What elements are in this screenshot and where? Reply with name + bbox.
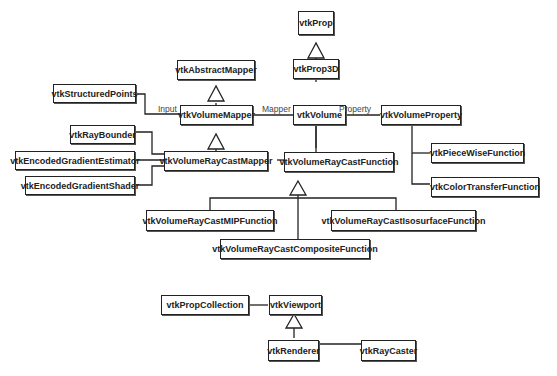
- class-vtkVolumeMapper: vtkVolumeMapper: [180, 105, 253, 125]
- class-vtkRenderer: vtkRenderer: [268, 340, 319, 361]
- class-vtkStructuredPoints: vtkStructuredPoints: [53, 84, 136, 103]
- class-vtkPieceWiseFunction: vtkPieceWiseFunction: [431, 143, 524, 163]
- class-vtkVolumeRayCastCompositeFunction: vtkVolumeRayCastCompositeFunction: [220, 239, 370, 259]
- class-vtkViewport: vtkViewport: [269, 295, 322, 315]
- class-vtkProp3D: vtkProp3D: [293, 59, 339, 79]
- class-vtkVolumeRayCastMapper: vtkVolumeRayCastMapper: [164, 151, 268, 171]
- class-vtkVolumeProperty: vtkVolumeProperty: [381, 105, 461, 125]
- class-vtkPropCollection: vtkPropCollection: [161, 295, 249, 315]
- class-vtkRayBounder: vtkRayBounder: [70, 125, 135, 144]
- class-vtkVolumeRayCastMIPFunction: vtkVolumeRayCastMIPFunction: [146, 210, 274, 231]
- class-vtkEncodedGradientEstimator: vtkEncodedGradientEstimator: [15, 151, 135, 170]
- class-vtkColorTransferFunction: vtkColorTransferFunction: [431, 177, 539, 197]
- label-mapper: Mapper: [262, 104, 291, 114]
- class-vtkVolumeRayCastIsosurfaceFunction: vtkVolumeRayCastIsosurfaceFunction: [331, 210, 476, 231]
- class-vtkProp: vtkProp: [298, 11, 334, 35]
- label-property: Property: [339, 104, 371, 114]
- class-vtkEncodedGradientShader: vtkEncodedGradientShader: [25, 176, 135, 195]
- class-vtkVolumeRayCastFunction: vtkVolumeRayCastFunction: [284, 152, 394, 172]
- label-input: Input: [158, 104, 177, 114]
- class-vtkRayCaster: vtkRayCaster: [361, 340, 416, 361]
- class-vtkAbstractMapper: vtkAbstractMapper: [177, 60, 255, 80]
